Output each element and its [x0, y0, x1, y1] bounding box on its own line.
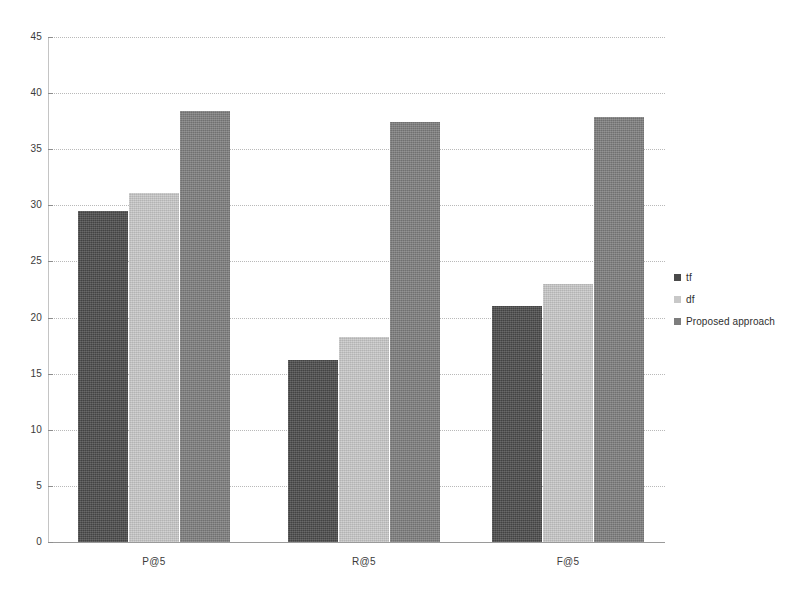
y-tick-label-20: 20 — [12, 313, 42, 323]
bar-Rat5-df — [339, 337, 389, 542]
legend-item-proposed[interactable]: Proposed approach — [674, 310, 796, 332]
y-tick-label-45: 45 — [12, 32, 42, 42]
y-tick-label-15: 15 — [12, 369, 42, 379]
bar-Fat5-tf — [492, 306, 542, 542]
bar-Pat5-df — [129, 193, 179, 542]
legend-item-df[interactable]: df — [674, 288, 796, 310]
x-label-Pat5: P@5 — [78, 556, 230, 567]
x-label-Rat5: R@5 — [288, 556, 440, 567]
bar-texture — [180, 111, 230, 542]
bar-chart: 051015202530354045 P@5R@5F@5 tfdfPropose… — [0, 0, 799, 594]
gridline-40 — [48, 93, 665, 94]
gridline-35 — [48, 149, 665, 150]
y-tick-mark-5 — [48, 486, 53, 487]
bar-texture — [339, 337, 389, 542]
y-tick-label-5: 5 — [12, 481, 42, 491]
y-tick-mark-25 — [48, 261, 53, 262]
y-axis-spine — [48, 37, 49, 542]
legend-label: df — [686, 294, 695, 305]
y-tick-mark-15 — [48, 374, 53, 375]
y-tick-mark-30 — [48, 205, 53, 206]
bar-texture — [78, 211, 128, 542]
y-tick-label-30: 30 — [12, 200, 42, 210]
bar-Fat5-proposed — [594, 117, 644, 542]
y-tick-label-10: 10 — [12, 425, 42, 435]
y-tick-mark-0 — [48, 542, 53, 543]
legend-label: Proposed approach — [686, 316, 775, 327]
legend-label: tf — [686, 272, 692, 283]
square-swatch-medium-icon — [674, 318, 681, 325]
y-tick-label-40: 40 — [12, 88, 42, 98]
y-tick-mark-45 — [48, 37, 53, 38]
gridline-45 — [48, 37, 665, 38]
y-tick-label-35: 35 — [12, 144, 42, 154]
bar-texture — [129, 193, 179, 542]
x-axis-line — [48, 542, 665, 543]
x-label-Fat5: F@5 — [492, 556, 644, 567]
chart-legend: tfdfProposed approach — [674, 266, 796, 332]
bar-texture — [492, 306, 542, 542]
bar-texture — [390, 122, 440, 542]
bar-Rat5-proposed — [390, 122, 440, 542]
bar-Rat5-tf — [288, 360, 338, 542]
square-swatch-light-icon — [674, 296, 681, 303]
y-tick-label-0: 0 — [12, 537, 42, 547]
plot-area — [48, 37, 665, 542]
legend-item-tf[interactable]: tf — [674, 266, 796, 288]
y-axis-tick-labels: 051015202530354045 — [8, 37, 42, 542]
bar-texture — [594, 117, 644, 542]
bar-Pat5-proposed — [180, 111, 230, 542]
y-tick-mark-10 — [48, 430, 53, 431]
square-swatch-dark-icon — [674, 274, 681, 281]
bar-texture — [543, 284, 593, 542]
bar-Fat5-df — [543, 284, 593, 542]
y-tick-mark-35 — [48, 149, 53, 150]
y-tick-mark-20 — [48, 318, 53, 319]
y-tick-label-25: 25 — [12, 256, 42, 266]
bar-texture — [288, 360, 338, 542]
y-tick-mark-40 — [48, 93, 53, 94]
bar-Pat5-tf — [78, 211, 128, 542]
